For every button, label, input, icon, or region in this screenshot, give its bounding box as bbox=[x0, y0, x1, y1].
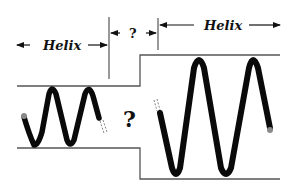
left-helix-coil bbox=[24, 89, 99, 145]
middle-unknown-dimension: ? bbox=[111, 26, 156, 41]
upper-boundary-line bbox=[17, 55, 280, 86]
right-helix-coil bbox=[160, 60, 270, 174]
left-helix-end-cap bbox=[21, 113, 27, 119]
left-helix-label: Helix bbox=[42, 38, 81, 53]
right-helix bbox=[154, 60, 273, 174]
left-helix-dashed-end bbox=[100, 120, 107, 133]
left-helix bbox=[21, 89, 107, 145]
right-helix-dashed-end bbox=[154, 99, 160, 111]
transition-question-mark: ? bbox=[123, 106, 136, 132]
left-helix-dimension: Helix bbox=[17, 38, 107, 53]
lower-boundary-line bbox=[17, 148, 280, 179]
helix-transition-diagram: Helix ? Helix ? bbox=[0, 0, 295, 189]
right-helix-dimension: Helix bbox=[160, 18, 280, 33]
middle-question-label: ? bbox=[129, 26, 137, 41]
right-helix-label: Helix bbox=[203, 18, 242, 33]
right-helix-end-cap bbox=[267, 127, 273, 133]
